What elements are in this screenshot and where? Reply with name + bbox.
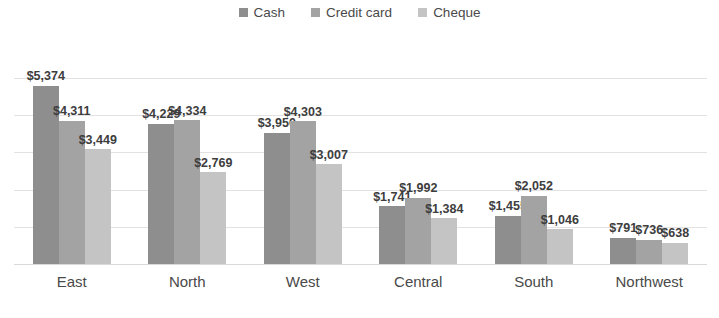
bar-column: $4,303 xyxy=(290,78,316,264)
category-label: North xyxy=(130,272,246,292)
bar-column: $1,992 xyxy=(405,78,431,264)
square-marker-icon xyxy=(311,8,320,17)
category-label: Northwest xyxy=(592,272,708,292)
bar[interactable] xyxy=(521,196,547,264)
bar-value-label: $1,384 xyxy=(425,203,463,216)
square-marker-icon xyxy=(418,8,427,17)
bar-group: $3,950$4,303$3,007 xyxy=(245,78,361,264)
bar[interactable] xyxy=(174,120,200,264)
bar[interactable] xyxy=(610,238,636,264)
bar-value-label: $638 xyxy=(661,227,689,240)
bar-column: $3,449 xyxy=(85,78,111,264)
bar-column: $3,007 xyxy=(316,78,342,264)
category-label: East xyxy=(14,272,130,292)
bar-value-label: $791 xyxy=(609,222,637,235)
legend-item-cash[interactable]: Cash xyxy=(239,6,286,20)
bar-column: $4,311 xyxy=(59,78,85,264)
legend-item-credit-card[interactable]: Credit card xyxy=(311,6,392,20)
bar-column: $4,334 xyxy=(174,78,200,264)
bar-cluster: $1,741$1,992$1,384 xyxy=(379,78,457,264)
chart-legend: Cash Credit card Cheque xyxy=(0,6,719,20)
bar-cluster: $3,950$4,303$3,007 xyxy=(264,78,342,264)
bar-column: $791 xyxy=(610,78,636,264)
bar-column: $1,455 xyxy=(495,78,521,264)
legend-item-cheque[interactable]: Cheque xyxy=(418,6,480,20)
bar[interactable] xyxy=(148,124,174,264)
bar-value-label: $3,449 xyxy=(79,134,117,147)
category-label: South xyxy=(476,272,592,292)
bar[interactable] xyxy=(290,121,316,264)
bar-group: $1,455$2,052$1,046 xyxy=(476,78,592,264)
bar-groups: $5,374$4,311$3,449$4,229$4,334$2,769$3,9… xyxy=(14,78,707,264)
bar-column: $2,052 xyxy=(521,78,547,264)
bar-cluster: $1,455$2,052$1,046 xyxy=(495,78,573,264)
bar-column: $736 xyxy=(636,78,662,264)
category-label: West xyxy=(245,272,361,292)
bar-value-label: $3,007 xyxy=(310,149,348,162)
bar[interactable] xyxy=(85,149,111,264)
bar[interactable] xyxy=(495,216,521,264)
bar-column: $1,046 xyxy=(547,78,573,264)
category-axis: EastNorthWestCentralSouthNorthwest xyxy=(14,272,707,292)
bar[interactable] xyxy=(200,172,226,264)
bar-group: $5,374$4,311$3,449 xyxy=(14,78,130,264)
bar[interactable] xyxy=(379,206,405,264)
bar[interactable] xyxy=(547,229,573,264)
bar-group: $4,229$4,334$2,769 xyxy=(130,78,246,264)
bar[interactable] xyxy=(316,164,342,264)
axis-baseline xyxy=(14,264,707,265)
legend-label: Cash xyxy=(254,6,286,20)
bar-column: $1,741 xyxy=(379,78,405,264)
legend-label: Cheque xyxy=(433,6,480,20)
bar-cluster: $4,229$4,334$2,769 xyxy=(148,78,226,264)
bar-column: $2,769 xyxy=(200,78,226,264)
bar[interactable] xyxy=(264,133,290,264)
bar[interactable] xyxy=(636,240,662,264)
legend-label: Credit card xyxy=(326,6,392,20)
bar[interactable] xyxy=(431,218,457,264)
bar-chart: Cash Credit card Cheque $5,374$4,311$3,4… xyxy=(0,0,719,318)
bar-group: $791$736$638 xyxy=(592,78,708,264)
category-label: Central xyxy=(361,272,477,292)
bar-column: $1,384 xyxy=(431,78,457,264)
bar-column: $638 xyxy=(662,78,688,264)
bar-value-label: $1,046 xyxy=(541,214,579,227)
bar-cluster: $5,374$4,311$3,449 xyxy=(33,78,111,264)
bar-group: $1,741$1,992$1,384 xyxy=(361,78,477,264)
bar[interactable] xyxy=(662,243,688,264)
plot-area: $5,374$4,311$3,449$4,229$4,334$2,769$3,9… xyxy=(14,78,707,264)
bar-value-label: $736 xyxy=(635,224,663,237)
square-marker-icon xyxy=(239,8,248,17)
bar-cluster: $791$736$638 xyxy=(610,78,688,264)
bar-value-label: $2,769 xyxy=(194,157,232,170)
